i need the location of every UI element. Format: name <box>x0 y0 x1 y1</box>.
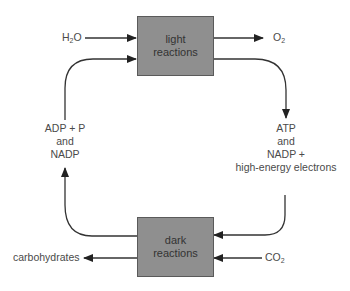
arrow-light-to-atp <box>213 59 286 118</box>
arrow-dark-to-adp <box>65 168 137 236</box>
arrow-electrons-to-dark <box>214 195 285 235</box>
water-label: H2O <box>62 31 82 44</box>
light-box-line1: light <box>153 33 198 46</box>
light-reactions-box: light reactions <box>137 16 214 76</box>
atp-nadp-electrons-label: ATP and NADP + high-energy electrons <box>226 122 346 174</box>
arrow-adp-to-light <box>65 59 136 120</box>
carbohydrates-label: carbohydrates <box>13 251 80 264</box>
co2-label: CO2 <box>265 251 285 264</box>
oxygen-label: O2 <box>273 31 285 44</box>
dark-box-line2: reactions <box>153 247 198 260</box>
light-box-line2: reactions <box>153 46 198 59</box>
dark-box-line1: dark <box>153 234 198 247</box>
dark-reactions-box: dark reactions <box>137 217 214 277</box>
adp-p-nadp-label: ADP + P and NADP <box>30 122 100 161</box>
